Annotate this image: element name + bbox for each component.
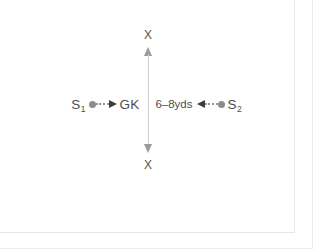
axis-label-bottom-x: X <box>134 159 162 171</box>
distance-label: 6–8yds <box>155 98 192 110</box>
right-server-group: 6–8yds S2 <box>147 97 241 112</box>
left-server-group: S1 GK <box>71 97 147 112</box>
dotted-line <box>96 103 109 105</box>
left-pass-arrow-icon <box>96 100 117 108</box>
drill-diagram: X X S1 GK 6–8yds S2 <box>0 0 313 249</box>
arrow-right-icon <box>109 100 117 108</box>
left-server-marker-icon <box>89 101 96 108</box>
right-pass-arrow-icon <box>197 100 218 108</box>
arrow-down-icon <box>144 144 152 153</box>
arrow-left-icon <box>197 100 205 108</box>
axis-label-top-x: X <box>134 29 162 41</box>
right-server-label: S2 <box>228 97 242 112</box>
goalkeeper-label: GK <box>120 97 140 112</box>
players-row: S1 GK 6–8yds S2 <box>0 93 313 115</box>
right-server-marker-icon <box>218 101 225 108</box>
dotted-line <box>205 103 218 105</box>
left-server-label: S1 <box>71 97 85 112</box>
